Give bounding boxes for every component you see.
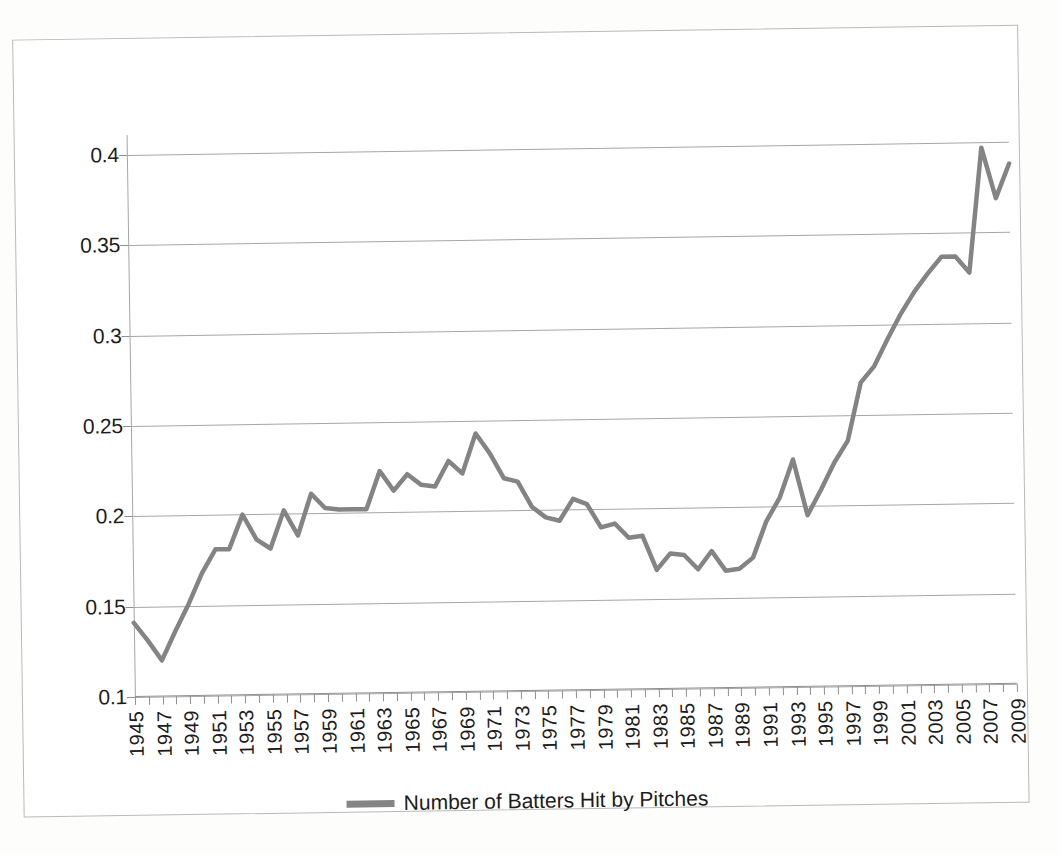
y-axis-tick-mark [123, 426, 131, 427]
x-axis-tick-label: 1973 [511, 705, 535, 751]
x-axis-tick-label: 1955 [263, 709, 287, 755]
x-axis-tick-label: 1999 [869, 700, 893, 746]
x-axis-tick-mark [851, 686, 852, 694]
x-axis-tick-mark [300, 694, 301, 702]
x-axis-tick-mark [727, 688, 728, 696]
x-axis-tick-mark [149, 697, 150, 705]
x-axis-tick-mark [631, 690, 632, 698]
x-axis-tick-mark [466, 692, 467, 700]
x-axis-tick-mark [1003, 684, 1004, 692]
x-axis-tick-mark [286, 695, 287, 703]
x-axis-tick-mark [769, 687, 770, 695]
x-axis-tick-mark [342, 694, 343, 702]
x-axis-tick-mark [948, 685, 949, 693]
x-axis-tick-label: 1945 [125, 711, 149, 757]
x-axis-tick-mark [920, 685, 921, 693]
x-axis-tick-mark [659, 689, 660, 697]
x-axis-tick-mark [218, 696, 219, 704]
x-axis-tick-mark [962, 685, 963, 693]
x-axis-tick-mark [162, 696, 163, 704]
x-axis-tick-label: 1987 [704, 702, 728, 748]
x-axis-tick-mark [328, 694, 329, 702]
x-axis-tick-mark [1017, 684, 1018, 692]
x-axis-tick-mark [204, 696, 205, 704]
x-axis-tick-mark [590, 690, 591, 698]
y-axis-tick-mark [126, 607, 134, 608]
x-axis-tick-mark [507, 691, 508, 699]
x-axis-tick-mark [686, 689, 687, 697]
x-axis-tick-label: 2003 [924, 699, 948, 745]
x-axis-tick-mark [479, 692, 480, 700]
x-axis-tick-label: 1961 [346, 707, 370, 753]
x-axis-tick-mark [535, 691, 536, 699]
x-axis-tick-label: 1997 [842, 700, 866, 746]
x-axis-tick-mark [493, 692, 494, 700]
x-axis-tick-mark [452, 692, 453, 700]
x-axis-tick-mark [700, 688, 701, 696]
x-axis-tick-mark [741, 688, 742, 696]
y-axis-tick-label: 0.2 [95, 504, 124, 528]
x-axis-tick-mark [411, 693, 412, 701]
x-axis-tick-mark [576, 690, 577, 698]
x-axis-tick-label: 2001 [897, 699, 921, 745]
x-axis-tick-mark [975, 684, 976, 692]
y-axis-tick-label: 0.35 [80, 233, 120, 258]
x-axis-tick-mark [438, 692, 439, 700]
x-axis-tick-mark [893, 686, 894, 694]
x-axis-tick-label: 1989 [731, 702, 755, 748]
x-axis-tick-label: 1993 [787, 701, 811, 747]
y-axis-tick-label: 0.3 [93, 324, 122, 348]
x-axis-tick-mark [176, 696, 177, 704]
x-axis-tick-label: 1979 [594, 704, 618, 750]
x-axis-tick-label: 1981 [621, 703, 645, 749]
x-axis-tick-label: 1995 [814, 700, 838, 746]
legend-label: Number of Batters Hit by Pitches [404, 786, 709, 815]
x-axis-tick-label: 1971 [483, 705, 507, 751]
x-axis-tick-mark [645, 689, 646, 697]
y-axis-tick-mark [124, 516, 132, 517]
x-axis-tick-mark [934, 685, 935, 693]
x-axis-tick-label: 2009 [1007, 698, 1031, 744]
x-axis-tick-label: 1957 [290, 708, 314, 754]
x-axis-tick-mark [907, 685, 908, 693]
x-axis-tick-mark [355, 694, 356, 702]
series-line-number-of-batters-hit-by-pitches [127, 142, 1017, 697]
x-axis-tick-mark [231, 695, 232, 703]
y-axis-tick-mark [122, 336, 130, 337]
x-axis-tick-mark [424, 693, 425, 701]
x-axis-tick-mark [245, 695, 246, 703]
legend-swatch-icon [347, 800, 395, 808]
scanned-figure: 0.40.350.30.250.20.150.1 194519471949195… [0, 0, 1060, 855]
x-axis-tick-mark [672, 689, 673, 697]
y-axis-tick-labels: 0.40.350.30.250.20.150.1 [45, 155, 127, 698]
y-axis-tick-label: 0.1 [98, 685, 127, 709]
x-axis-tick-label: 1965 [401, 707, 425, 753]
x-axis-tick-label: 1975 [539, 705, 563, 751]
x-axis-tick-label: 2007 [979, 698, 1003, 744]
y-axis-tick-mark [119, 155, 127, 156]
x-axis-tick-label: 1969 [456, 706, 480, 752]
x-axis-tick-mark [562, 691, 563, 699]
chart-frame: 0.40.350.30.250.20.150.1 194519471949195… [12, 25, 1029, 818]
x-axis-tick-mark [135, 697, 136, 705]
x-axis-tick-mark [783, 687, 784, 695]
x-axis-tick-mark [810, 687, 811, 695]
x-axis-tick-label: 1985 [676, 703, 700, 749]
x-axis-tick-mark [369, 693, 370, 701]
x-axis-tick-mark [617, 690, 618, 698]
x-axis-tick-mark [989, 684, 990, 692]
x-axis-tick-mark [796, 687, 797, 695]
y-axis-tick-mark [127, 697, 135, 698]
x-axis-tick-mark [603, 690, 604, 698]
x-axis-tick-mark [273, 695, 274, 703]
x-axis-tick-mark [838, 686, 839, 694]
x-axis-tick-mark [755, 688, 756, 696]
x-axis-tick-mark [865, 686, 866, 694]
x-axis-tick-label: 1953 [235, 709, 259, 755]
x-axis-tick-label: 1967 [428, 706, 452, 752]
x-axis-tick-mark [824, 687, 825, 695]
y-axis-tick-label: 0.25 [83, 414, 123, 439]
x-axis-tick-mark [383, 693, 384, 701]
x-axis-tick-mark [714, 688, 715, 696]
x-axis-tick-label: 1977 [566, 704, 590, 750]
